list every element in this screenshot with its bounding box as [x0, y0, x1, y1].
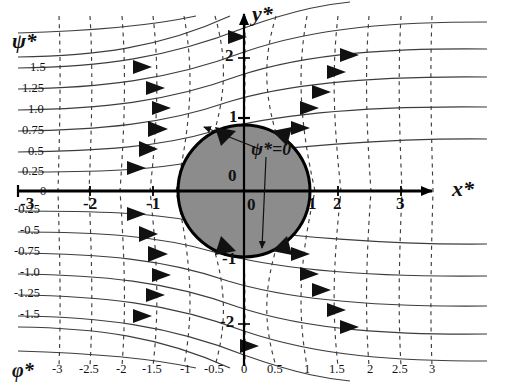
psi-tick-label: -1.0: [20, 266, 40, 279]
y-axis-name: y*: [252, 3, 273, 25]
psi-tick-label: 1.5: [30, 61, 46, 74]
psi-tick-label: -0.75: [14, 245, 40, 258]
phi-tick-label: -1: [180, 363, 190, 376]
x-tick-label: 3: [396, 195, 405, 212]
x-tick-label: 2: [333, 195, 342, 212]
psi-tick-label: 0.25: [22, 165, 44, 178]
psi-tick-label: 0.5: [28, 145, 44, 158]
y-tick-label: -2: [220, 313, 234, 330]
x-tick-label: -3: [20, 195, 34, 212]
phi-tick-label: -0.5: [204, 363, 224, 376]
phi-tick-label: 3: [429, 363, 435, 376]
psi-tick-label: 1.0: [28, 103, 44, 116]
psi-tick-label: 0: [40, 185, 46, 198]
psi-tick-label: 1.25: [22, 82, 44, 95]
y-tick-label: -1: [222, 250, 236, 267]
psi-axis-name: ψ*: [12, 31, 37, 52]
psi-tick-label: 0.75: [22, 124, 44, 137]
x-tick-label: -2: [83, 195, 97, 212]
y-tick-label: 1: [229, 108, 238, 125]
phi-tick-label: 0.5: [267, 363, 283, 376]
psi-tick-label: -1.25: [14, 287, 40, 300]
phi-tick-label: -3: [52, 363, 62, 376]
phi-tick-label: 0: [241, 363, 247, 376]
psi-zero-label: ψ*=0: [251, 140, 291, 158]
phi-tick-label: -1.5: [142, 363, 162, 376]
phi-axis-name: φ*: [12, 360, 34, 380]
psi-tick-label: -1.5: [20, 308, 40, 321]
y-tick-label: 0: [228, 167, 237, 184]
phi-tick-label: 2.5: [392, 363, 408, 376]
potential-flow-figure: ψ* φ* x* y* ψ*=0 1.5 1.25 1.0 0.75 0.5 0…: [0, 0, 505, 392]
phi-tick-label: 1.5: [329, 363, 345, 376]
psi-tick-label: -0.5: [20, 224, 40, 237]
x-axis-name: x*: [452, 178, 474, 200]
phi-tick-label: 1: [304, 363, 310, 376]
x-tick-label: 0: [247, 196, 256, 213]
y-tick-label: 2: [225, 47, 234, 64]
x-tick-label: 1: [308, 195, 317, 212]
phi-tick-label: -2.5: [79, 363, 99, 376]
phi-tick-label: -2: [116, 363, 126, 376]
phi-tick-label: 2: [367, 363, 373, 376]
x-tick-label: -1: [146, 195, 160, 212]
